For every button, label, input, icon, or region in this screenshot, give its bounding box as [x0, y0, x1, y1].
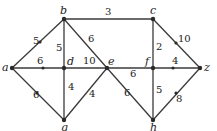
weight-c-z: 10: [178, 33, 191, 44]
node-label-g: g: [61, 121, 68, 131]
graph-canvas: a b c d e f z g h 5 6 6 5 6 3 10 4 4 6 6…: [0, 0, 217, 131]
weight-e-h: 6: [124, 87, 130, 98]
weight-f-h: 5: [156, 84, 162, 95]
node-label-b: b: [60, 4, 67, 17]
graph-diagram: a b c d e f z g h 5 6 6 5 6 3 10 4 4 6 6…: [0, 0, 217, 131]
weight-h-z: 8: [176, 93, 182, 104]
node-label-a: a: [2, 61, 9, 74]
weight-d-e: 10: [83, 55, 96, 66]
node-label-z: z: [203, 61, 210, 74]
weight-a-b: 5: [33, 35, 39, 46]
node-c: [151, 17, 155, 21]
node-a: [10, 66, 14, 70]
weight-f-z: 4: [172, 55, 178, 66]
weight-e-g: 4: [89, 88, 95, 99]
node-label-h: h: [150, 121, 157, 131]
node-z: [198, 66, 202, 70]
weight-c-f: 2: [156, 41, 162, 52]
node-f: [151, 66, 155, 70]
node-label-d: d: [67, 55, 74, 68]
edge-e-g: [64, 68, 107, 120]
node-b: [62, 17, 66, 21]
weight-b-c: 3: [105, 6, 111, 17]
weight-b-d: 5: [56, 42, 62, 53]
node-label-c: c: [150, 4, 156, 17]
edge-marker-f-z: [171, 66, 174, 69]
node-d: [62, 66, 66, 70]
weight-a-g: 6: [33, 89, 39, 100]
weight-d-g: 4: [68, 81, 74, 92]
edge-marker-a-d: [41, 66, 44, 69]
weight-b-e: 6: [88, 33, 94, 44]
node-label-f: f: [144, 55, 151, 68]
weight-e-f: 6: [130, 68, 136, 79]
node-label-e: e: [108, 55, 115, 68]
weight-a-d: 6: [37, 55, 43, 66]
